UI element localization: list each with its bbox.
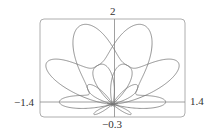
x-max-label: 1.4 (190, 96, 204, 107)
y-min-label: −0.3 (102, 119, 122, 130)
polar-plot (0, 0, 211, 133)
y-max-label: 2 (110, 6, 116, 17)
x-min-label: −1.4 (14, 97, 34, 108)
polar-curve (46, 24, 179, 114)
